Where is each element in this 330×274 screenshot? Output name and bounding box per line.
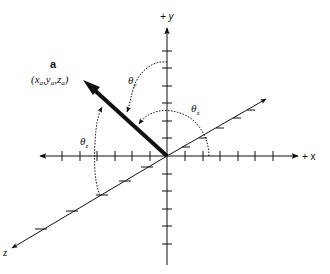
z-axis-label: z (2, 246, 8, 258)
theta-z-label: θz (80, 135, 88, 150)
vector-name-label: a (50, 58, 57, 70)
x-axis-label: + x (302, 151, 316, 162)
z-axis (12, 99, 266, 248)
y-axis (162, 28, 172, 265)
vector-direction-angles-diagram: + x + y (0, 0, 330, 274)
theta-z-arc (95, 107, 102, 195)
y-axis-label: + y (160, 11, 175, 22)
theta-x-label: θx (191, 102, 200, 117)
theta-x-arc (139, 111, 209, 156)
theta-y-label: θy (128, 74, 137, 89)
vector-coords-label: (xa,ya,za) (31, 73, 69, 87)
x-axis (40, 151, 298, 161)
vector-a (83, 80, 167, 156)
